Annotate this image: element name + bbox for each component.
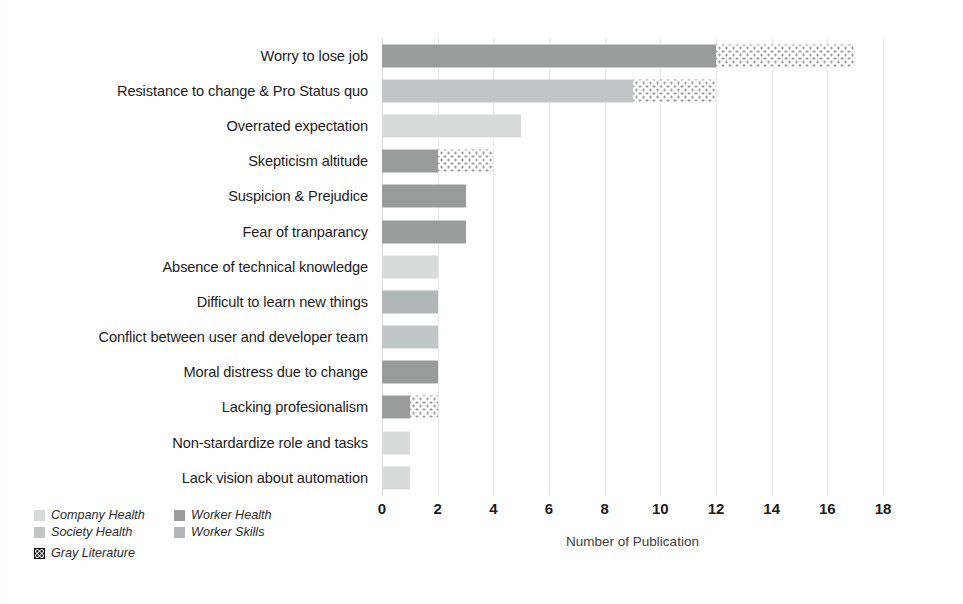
legend-item[interactable]: Gray Literature xyxy=(34,546,324,560)
category-label: Suspicion & Prejudice xyxy=(0,188,368,204)
x-tick-label: 2 xyxy=(433,500,441,517)
legend-item[interactable]: Society Health xyxy=(34,525,174,539)
stacked-bar xyxy=(382,79,716,102)
bar-segment xyxy=(410,396,438,419)
x-tick-label: 12 xyxy=(708,500,725,517)
bar-row: Lack vision about automation xyxy=(0,460,963,495)
stacked-bar xyxy=(382,326,438,349)
legend-label: Worker Health xyxy=(191,508,271,522)
bar-segment xyxy=(716,44,855,67)
bar-segment xyxy=(382,220,466,243)
legend-swatch-icon xyxy=(34,527,45,538)
x-tick-label: 4 xyxy=(489,500,497,517)
legend-label: Society Health xyxy=(51,525,132,539)
bar-segment xyxy=(382,466,410,489)
category-label: Lacking profesionalism xyxy=(0,399,368,415)
bar-row: Lacking profesionalism xyxy=(0,390,963,425)
legend-item[interactable]: Worker Skills xyxy=(174,525,324,539)
stacked-bar xyxy=(382,185,466,208)
legend: Company HealthWorker HealthSociety Healt… xyxy=(34,508,364,560)
x-tick-label: 6 xyxy=(545,500,553,517)
legend-swatch-icon xyxy=(174,510,185,521)
legend-item[interactable]: Worker Health xyxy=(174,508,324,522)
bar-segment xyxy=(382,431,410,454)
stacked-bar xyxy=(382,290,438,313)
x-axis-title: Number of Publication xyxy=(382,534,883,549)
stacked-bar xyxy=(382,396,438,419)
x-tick-label: 0 xyxy=(378,500,386,517)
x-tick-label: 16 xyxy=(819,500,836,517)
bar-row: Absence of technical knowledge xyxy=(0,249,963,284)
bar-segment xyxy=(382,396,410,419)
stacked-bar xyxy=(382,466,410,489)
bar-row: Resistance to change & Pro Status quo xyxy=(0,73,963,108)
legend-swatch-icon xyxy=(34,548,45,559)
legend-swatch-icon xyxy=(34,510,45,521)
bar-chart: Worry to lose jobResistance to change & … xyxy=(0,0,963,604)
legend-item[interactable]: Company Health xyxy=(34,508,174,522)
stacked-bar xyxy=(382,431,410,454)
x-axis: 024681012141618 xyxy=(382,500,883,522)
bar-segment xyxy=(382,255,438,278)
stacked-bar xyxy=(382,361,438,384)
bar-row: Suspicion & Prejudice xyxy=(0,179,963,214)
stacked-bar xyxy=(382,114,521,137)
bar-row: Conflict between user and developer team xyxy=(0,320,963,355)
stacked-bar xyxy=(382,150,493,173)
bar-segment xyxy=(382,185,466,208)
category-label: Difficult to learn new things xyxy=(0,294,368,310)
legend-label: Company Health xyxy=(51,508,145,522)
bar-row: Difficult to learn new things xyxy=(0,284,963,319)
legend-grid: Company HealthWorker HealthSociety Healt… xyxy=(34,508,364,560)
category-label: Skepticism altitude xyxy=(0,153,368,169)
category-label: Conflict between user and developer team xyxy=(0,329,368,345)
bar-row: Overrated expectation xyxy=(0,108,963,143)
category-label: Moral distress due to change xyxy=(0,364,368,380)
stacked-bar xyxy=(382,220,466,243)
x-tick-label: 14 xyxy=(763,500,780,517)
bar-row: Non-stardardize role and tasks xyxy=(0,425,963,460)
category-label: Overrated expectation xyxy=(0,118,368,134)
x-tick-label: 18 xyxy=(875,500,892,517)
stacked-bar xyxy=(382,44,855,67)
bar-row: Worry to lose job xyxy=(0,38,963,73)
bar-segment xyxy=(382,290,438,313)
bar-segment xyxy=(382,79,633,102)
bar-segment xyxy=(382,44,716,67)
bar-row: Skepticism altitude xyxy=(0,144,963,179)
category-label: Absence of technical knowledge xyxy=(0,259,368,275)
legend-swatch-icon xyxy=(174,527,185,538)
bar-segment xyxy=(382,114,521,137)
category-label: Non-stardardize role and tasks xyxy=(0,435,368,451)
category-label: Fear of tranparancy xyxy=(0,224,368,240)
legend-label: Gray Literature xyxy=(51,546,135,560)
bar-row: Fear of tranparancy xyxy=(0,214,963,249)
category-label: Resistance to change & Pro Status quo xyxy=(0,83,368,99)
x-tick-label: 10 xyxy=(652,500,669,517)
category-label: Worry to lose job xyxy=(0,48,368,64)
stacked-bar xyxy=(382,255,438,278)
category-label: Lack vision about automation xyxy=(0,470,368,486)
legend-label: Worker Skills xyxy=(191,525,264,539)
bar-segment xyxy=(382,150,438,173)
bar-segment xyxy=(633,79,717,102)
bar-rows: Worry to lose jobResistance to change & … xyxy=(0,38,963,496)
x-tick-label: 8 xyxy=(600,500,608,517)
bar-row: Moral distress due to change xyxy=(0,355,963,390)
bar-segment xyxy=(382,361,438,384)
bar-segment xyxy=(382,326,438,349)
bar-segment xyxy=(438,150,494,173)
